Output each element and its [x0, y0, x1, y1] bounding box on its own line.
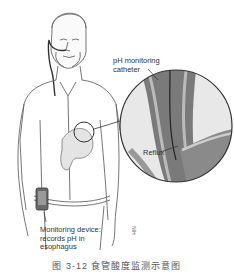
stomach-illustration	[61, 128, 93, 170]
illustration	[0, 0, 234, 274]
device-label-line-3: esophagus	[40, 243, 101, 252]
reflux-label: Reflux	[143, 149, 164, 158]
artist-signature: NIH	[131, 226, 137, 235]
monitoring-device	[36, 188, 48, 222]
catheter-label-line-2: catheter	[113, 66, 160, 75]
diagram-figure: pH monitoring catheter Reflux Monitoring…	[0, 0, 234, 274]
device-label: Monitoring device: records pH in esophag…	[40, 226, 101, 252]
magnified-esophagus-view	[120, 70, 234, 200]
catheter-label: pH monitoring catheter	[113, 57, 160, 74]
figure-caption: 图 3-12 食管酸度监测示意图	[0, 259, 234, 272]
